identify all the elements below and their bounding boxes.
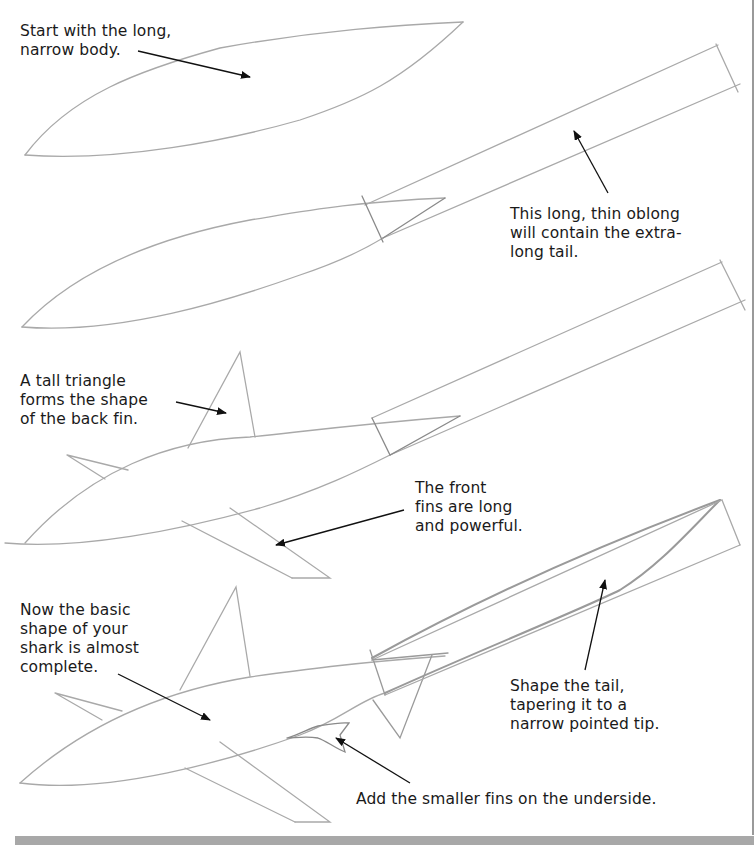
body-outline-bottom bbox=[5, 455, 390, 544]
side-fin bbox=[55, 693, 122, 720]
caption-step4-tail: Shape the tail, tapering it to a narrow … bbox=[510, 677, 659, 734]
arrow-step3-frontfins bbox=[276, 510, 404, 545]
side-fin bbox=[67, 455, 128, 479]
arrow-step4-body bbox=[118, 674, 210, 720]
caption-step3-backfin: A tall triangle forms the shape of the b… bbox=[20, 372, 148, 429]
tail-box bbox=[372, 416, 460, 455]
arrow-step3-backfin bbox=[176, 402, 226, 413]
step-2-drawing bbox=[22, 44, 740, 328]
front-fin-2 bbox=[182, 521, 292, 578]
tail-oblong-end bbox=[722, 500, 740, 545]
front-fin-1 bbox=[220, 742, 330, 822]
front-fin-1 bbox=[230, 508, 330, 578]
body-outline-top bbox=[22, 198, 445, 327]
tail-connector-triangle bbox=[383, 198, 445, 238]
tail-oblong-bottom bbox=[390, 300, 745, 455]
back-fin bbox=[188, 352, 255, 448]
body-outline-bottom bbox=[20, 693, 385, 785]
tail-oblong-end bbox=[720, 260, 745, 310]
caption-step3-frontfins: The front fins are long and powerful. bbox=[415, 479, 523, 536]
caption-step2-oblong: This long, thin oblong will contain the … bbox=[510, 205, 682, 262]
underside-fin-2 bbox=[373, 655, 432, 738]
arrow-step4-underside bbox=[336, 738, 410, 783]
body-outline-top bbox=[25, 416, 460, 543]
tail-oblong-end bbox=[716, 44, 738, 92]
tail-oblong-top bbox=[365, 45, 718, 205]
page-bottom-bar bbox=[15, 836, 754, 845]
arrow-step2-oblong bbox=[574, 131, 608, 193]
tail-oblong-top bbox=[372, 262, 722, 418]
caption-step4-underside-fins: Add the smaller fins on the underside. bbox=[356, 790, 657, 809]
caption-step4-almost-complete: Now the basic shape of your shark is alm… bbox=[20, 601, 139, 677]
back-fin bbox=[180, 587, 250, 690]
arrow-step4-tail bbox=[585, 580, 605, 670]
caption-step1-body: Start with the long, narrow body. bbox=[20, 22, 171, 60]
tail-oblong-bottom bbox=[385, 545, 740, 695]
front-fin-2 bbox=[185, 768, 295, 822]
